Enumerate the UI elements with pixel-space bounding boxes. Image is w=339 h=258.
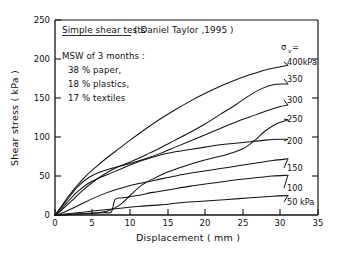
y-axis-title: Shear stress ( kPa )	[9, 70, 20, 166]
y-axis-ticks	[55, 20, 318, 215]
x-tick-25: 25	[238, 218, 249, 228]
annotation-block: Simple shear tests ( Daniel Taylor ,1995…	[62, 25, 234, 103]
x-tick-15: 15	[163, 218, 174, 228]
x-tick-20: 20	[200, 218, 211, 228]
x-tick-35: 35	[313, 218, 324, 228]
x-tick-5: 5	[89, 218, 94, 228]
curve-300-kpa	[55, 105, 288, 215]
x-tick-30: 30	[275, 218, 286, 228]
x-tick-0: 0	[52, 218, 57, 228]
equals-sign: =	[292, 42, 299, 52]
chart-figure: 0 50 100 150 200 250 0 5 10 15 20 25 30	[0, 0, 339, 258]
curve-350-kpa	[55, 84, 288, 215]
x-tick-10: 10	[125, 218, 136, 228]
y-tick-0: 0	[45, 210, 50, 220]
series-label-350-kpa: 350	[287, 74, 303, 84]
legend-header: σ v =	[281, 42, 299, 54]
series-label-250-kpa: 250	[287, 114, 303, 124]
series-label-150-kpa: 150	[287, 163, 303, 173]
annotation-line-2: 38 % paper,	[68, 65, 121, 75]
curve-250-kpa	[55, 120, 288, 215]
curve-100-kpa	[55, 175, 288, 215]
series-end-labels: 400kPa35030025020015010050 kPa	[284, 57, 317, 207]
y-tick-150: 150	[34, 93, 50, 103]
annotation-line-3: 18 % plastics,	[68, 79, 129, 89]
sigma-symbol: σ	[281, 42, 287, 52]
annotation-citation: ( Daniel Taylor ,1995 )	[134, 25, 234, 35]
y-tick-50: 50	[39, 171, 50, 181]
y-tick-labels: 0 50 100 150 200 250	[34, 15, 50, 220]
annotation-line-4: 17 % textiles	[68, 93, 126, 103]
x-tick-labels: 0 5 10 15 20 25 30 35	[52, 218, 323, 228]
series-label-50-kpa: 50 kPa	[287, 197, 314, 207]
y-tick-100: 100	[34, 132, 50, 142]
curve-50-kpa	[55, 196, 288, 216]
shear-stress-vs-displacement-chart: 0 50 100 150 200 250 0 5 10 15 20 25 30	[0, 0, 339, 258]
y-tick-250: 250	[34, 15, 50, 25]
series-label-200-kpa: 200	[287, 136, 303, 146]
curve-150-kpa	[55, 159, 288, 215]
annotation-line-1: MSW of 3 months :	[62, 51, 145, 61]
y-tick-200: 200	[34, 54, 50, 64]
x-axis-title: Displacement ( mm )	[136, 232, 240, 243]
x-axis-ticks	[55, 209, 318, 215]
axis-frame	[55, 20, 318, 215]
axis-lines	[55, 20, 318, 215]
series-label-100-kpa: 100	[287, 183, 303, 193]
series-label-300-kpa: 300	[287, 95, 303, 105]
series-label-400-kpa: 400kPa	[287, 57, 317, 67]
